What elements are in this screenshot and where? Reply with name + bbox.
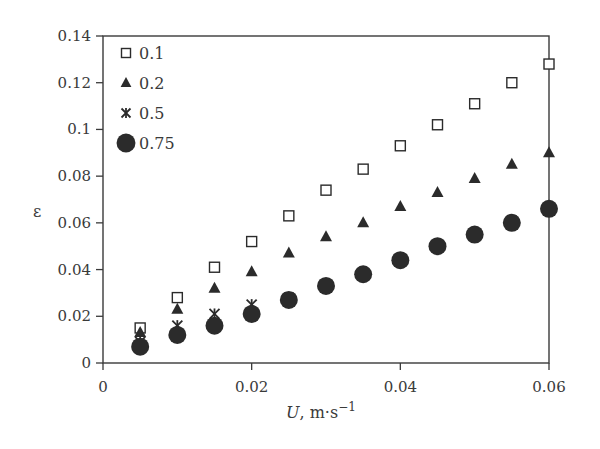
circle-marker (540, 200, 558, 218)
series-0_5 (135, 203, 554, 347)
legend-label: 0.75 (139, 134, 175, 153)
circle-marker (243, 305, 261, 323)
legend-label: 0.5 (139, 104, 164, 123)
y-tick-label: 0.12 (58, 74, 91, 92)
circle-marker (354, 265, 372, 283)
square-marker (122, 49, 131, 58)
plot-area-border (103, 36, 549, 363)
triangle-marker (506, 158, 518, 169)
asterisk-marker (122, 108, 131, 118)
series-0_2 (134, 146, 555, 337)
y-axis: 00.020.040.060.080.10.120.14 (58, 27, 103, 372)
triangle-marker (320, 230, 332, 241)
plot-frame (103, 36, 549, 363)
circle-marker (117, 134, 136, 153)
circle-marker (466, 226, 484, 244)
circle-marker (131, 338, 149, 356)
triangle-marker (246, 265, 258, 276)
triangle-marker (357, 216, 369, 227)
x-axis-label: U, m·s−1 (286, 400, 356, 422)
y-tick-label: 0.14 (58, 27, 91, 45)
triangle-marker (394, 200, 406, 211)
x-tick-label: 0.02 (235, 378, 268, 396)
legend-item: 0.5 (122, 104, 165, 123)
x-tick-label: 0.06 (532, 378, 565, 396)
circle-marker (317, 277, 335, 295)
circle-marker (168, 326, 186, 344)
scatter-chart: 00.020.040.060.080.10.120.14 00.020.040.… (0, 0, 600, 449)
circle-marker (391, 251, 409, 269)
legend-label: 0.1 (139, 44, 164, 63)
square-marker (247, 237, 257, 247)
x-axis: 00.020.040.06 (98, 363, 565, 396)
data-points (131, 59, 558, 356)
circle-marker (503, 214, 521, 232)
square-marker (395, 141, 405, 151)
square-marker (507, 78, 517, 88)
series-0_75 (131, 200, 558, 356)
x-tick-label: 0 (98, 378, 108, 396)
circle-marker (206, 317, 224, 335)
y-axis-label: ε (33, 202, 41, 221)
triangle-marker (209, 282, 221, 293)
square-marker (172, 293, 182, 303)
square-marker (321, 185, 331, 195)
square-marker (210, 262, 220, 272)
triangle-marker (543, 146, 555, 157)
x-axis-label-unit: , m·s (299, 403, 338, 422)
legend-item: 0.2 (121, 74, 165, 93)
triangle-marker (121, 77, 132, 87)
legend-item: 0.75 (117, 134, 175, 153)
legend: 0.10.20.50.75 (117, 44, 175, 153)
y-tick-label: 0.04 (58, 261, 91, 279)
square-marker (470, 99, 480, 109)
triangle-marker (432, 186, 444, 197)
circle-marker (280, 291, 298, 309)
y-tick-label: 0.02 (58, 307, 91, 325)
y-tick-label: 0 (81, 354, 91, 372)
y-tick-label: 0.1 (67, 120, 91, 138)
triangle-marker (469, 172, 481, 183)
triangle-marker (171, 303, 183, 314)
square-marker (544, 59, 554, 69)
triangle-marker (283, 247, 295, 258)
square-marker (433, 120, 443, 130)
legend-item: 0.1 (122, 44, 165, 63)
legend-label: 0.2 (139, 74, 164, 93)
series-0_1 (135, 59, 554, 333)
y-tick-label: 0.08 (58, 167, 91, 185)
x-axis-label-symbol: U (286, 403, 300, 422)
square-marker (358, 164, 368, 174)
x-tick-label: 0.04 (384, 378, 417, 396)
square-marker (284, 211, 294, 221)
y-tick-label: 0.06 (58, 214, 91, 232)
circle-marker (429, 237, 447, 255)
x-axis-label-exponent: −1 (338, 400, 356, 414)
